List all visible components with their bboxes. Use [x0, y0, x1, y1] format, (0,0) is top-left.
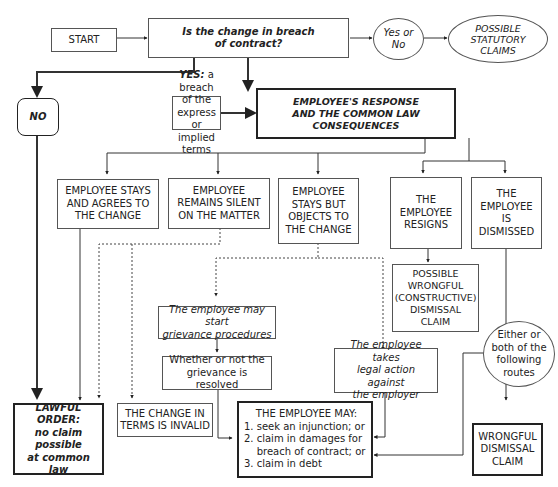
statutory-claims-node: POSSIBLE STATUTORY CLAIMS: [448, 15, 548, 63]
no-node: NO: [17, 98, 59, 136]
lawful-order-text: no claim possible at common law: [17, 427, 100, 477]
employee-may-item: 1. seek an injunction; or: [244, 421, 365, 434]
employee-objects-node: EMPLOYEE STAYS BUT OBJECTS TO THE CHANGE: [278, 178, 359, 244]
employee-may-item: 2. claim in damages for: [244, 433, 362, 446]
grievance-resolved-node: Whether or not the grievance is resolved: [162, 356, 272, 390]
routes-node: Either or both of the following routes: [483, 321, 555, 387]
start-node: START: [51, 28, 117, 52]
employee-silent-node: EMPLOYEE REMAINS SILENT ON THE MATTER: [168, 178, 270, 229]
employee-agrees-node: EMPLOYEE STAYS AND AGREES TO THE CHANGE: [57, 179, 159, 229]
employee-response-node: EMPLOYEE'S RESPONSE AND THE COMMON LAW C…: [256, 88, 456, 139]
employee-may-item: breach of contract; or: [244, 446, 365, 459]
employee-may-node: THE EMPLOYEE MAY: 1. seek an injunction;…: [237, 401, 373, 478]
employee-resigns-node: THE EMPLOYEE RESIGNS: [390, 177, 462, 249]
legal-action-node: The employee takes legal action against …: [334, 348, 438, 393]
employee-dismissed-node: THE EMPLOYEE IS DISMISSED: [471, 177, 542, 249]
change-invalid-node: THE CHANGE IN TERMS IS INVALID: [117, 403, 213, 437]
yes-node: YES: a breach of the express or implied …: [172, 96, 221, 130]
grievance-procedures-node: The employee may start grievance procedu…: [158, 306, 276, 339]
lawful-order-title: LAWFUL ORDER:: [36, 402, 82, 427]
yes-label: YES:: [179, 69, 204, 80]
employee-may-title: THE EMPLOYEE MAY:: [256, 408, 357, 421]
constructive-dismissal-node: POSSIBLE WRONGFUL (CONSTRUCTIVE) DISMISS…: [392, 264, 479, 332]
breach-question-node: Is the change in breach of contract?: [148, 18, 349, 58]
yes-text: a breach of the express or implied terms: [177, 69, 216, 155]
yes-or-no-node: Yes or No: [373, 18, 424, 60]
wrongful-dismissal-node: WRONGFUL DISMISSAL CLAIM: [472, 423, 543, 476]
employee-may-item: 3. claim in debt: [244, 458, 322, 471]
lawful-order-node: LAWFUL ORDER: no claim possible at commo…: [13, 403, 104, 475]
